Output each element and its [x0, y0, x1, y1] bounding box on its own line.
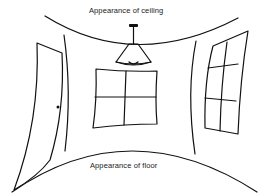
left-wall-edge [64, 35, 68, 151]
distorted-room-diagram: Appearance of ceiling Appearance of floo… [0, 0, 271, 196]
right-wall-edge [191, 41, 196, 154]
door-knob [57, 106, 60, 109]
ceiling-label: Appearance of ceiling [89, 6, 163, 15]
floor-curve [12, 151, 257, 192]
right-window [205, 31, 248, 134]
floor-label: Appearance of floor [90, 161, 157, 170]
ceiling-curve [45, 16, 238, 45]
center-window [93, 69, 157, 128]
